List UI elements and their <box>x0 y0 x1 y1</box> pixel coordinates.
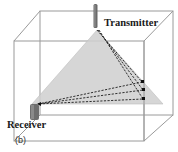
transmitter-antenna-icon <box>94 4 98 28</box>
ray-tracing-diagram: Transmitter Receiver (b) <box>0 0 178 152</box>
receiver-icon <box>30 104 39 120</box>
figure-caption: (b) <box>15 135 26 145</box>
reflection-point <box>142 97 145 100</box>
reflection-point <box>141 80 144 83</box>
edge-bottom-right <box>144 115 173 141</box>
reflection-point <box>142 88 145 91</box>
transmitter-label: Transmitter <box>104 17 158 28</box>
receiver-label: Receiver <box>7 119 46 130</box>
edge-top-left <box>14 11 40 41</box>
